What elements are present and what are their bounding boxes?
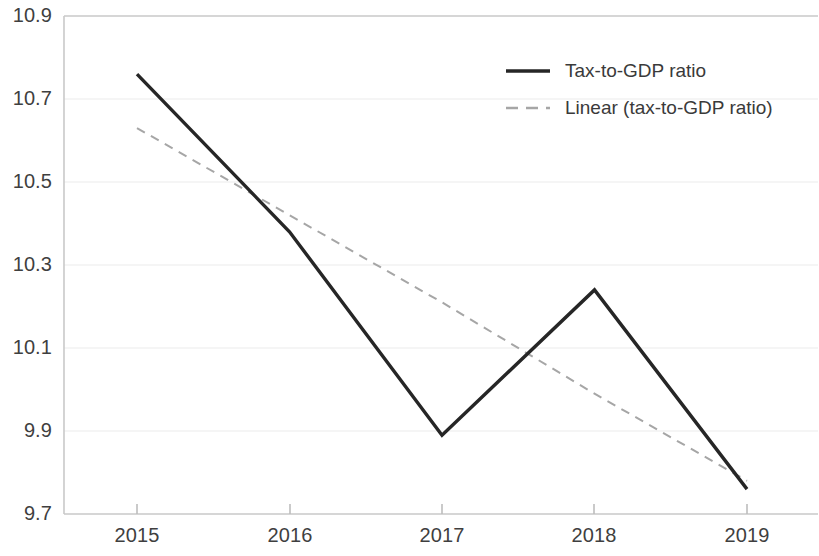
x-axis-ticks (137, 504, 747, 514)
y-tick-label-5: 9.9 (0, 419, 52, 442)
y-tick-label-1: 10.7 (0, 87, 52, 110)
gridlines (64, 99, 818, 431)
legend-item-linear-tax-to-gdp-ratio: Linear (tax-to-GDP ratio) (505, 95, 773, 121)
solid-line-swatch (505, 62, 551, 80)
chart-legend: Tax-to-GDP ratio Linear (tax-to-GDP rati… (505, 58, 773, 121)
legend-label-tax-to-gdp-ratio: Tax-to-GDP ratio (565, 60, 706, 82)
dashed-line-swatch (505, 99, 551, 117)
trendline-linear-tax-to-gdp-ratio (137, 128, 747, 481)
y-tick-label-2: 10.5 (0, 170, 52, 193)
y-tick-label-4: 10.1 (0, 336, 52, 359)
x-tick-label-0: 2015 (87, 524, 187, 547)
legend-label-linear-tax-to-gdp-ratio: Linear (tax-to-GDP ratio) (565, 97, 773, 119)
y-tick-label-3: 10.3 (0, 253, 52, 276)
y-tick-label-0: 10.9 (0, 4, 52, 27)
legend-item-tax-to-gdp-ratio: Tax-to-GDP ratio (505, 58, 773, 84)
series-line-tax-to-gdp-ratio (137, 74, 747, 489)
x-tick-label-3: 2018 (544, 524, 644, 547)
chart-container: 10.9 10.7 10.5 10.3 10.1 9.9 9.7 2015 20… (0, 0, 819, 556)
y-tick-label-6: 9.7 (0, 502, 52, 525)
x-tick-label-2: 2017 (392, 524, 492, 547)
x-tick-label-1: 2016 (240, 524, 340, 547)
x-tick-label-4: 2019 (697, 524, 797, 547)
